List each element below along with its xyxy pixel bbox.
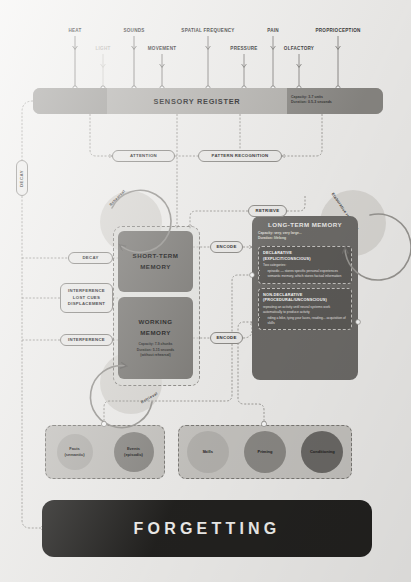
chip-pattern-recognition[interactable]: PATTERN RECOGNITION	[198, 150, 282, 162]
memory-model-diagram: HEATLIGHTSOUNDSMOVEMENTSPATIAL FREQUENCY…	[0, 0, 411, 582]
chip-encode-wm[interactable]: ENCODE	[210, 332, 243, 344]
chip-interference-wm[interactable]: INTERFERENCE	[60, 334, 113, 346]
chip-attention[interactable]: ATTENTION	[112, 150, 175, 162]
chip-encode-stm[interactable]: ENCODE	[210, 241, 243, 253]
chip-interference-line-3: DISPLACEMENT	[68, 301, 106, 307]
chip-interference-block[interactable]: INTERFERENCE LOST CUES DISPLACEMENT	[60, 283, 113, 313]
chip-decay-spine[interactable]: DECAY	[16, 160, 28, 196]
chip-decay-stm[interactable]: DECAY	[68, 252, 113, 264]
chip-retrieve[interactable]: RETRIEVE	[248, 205, 287, 217]
